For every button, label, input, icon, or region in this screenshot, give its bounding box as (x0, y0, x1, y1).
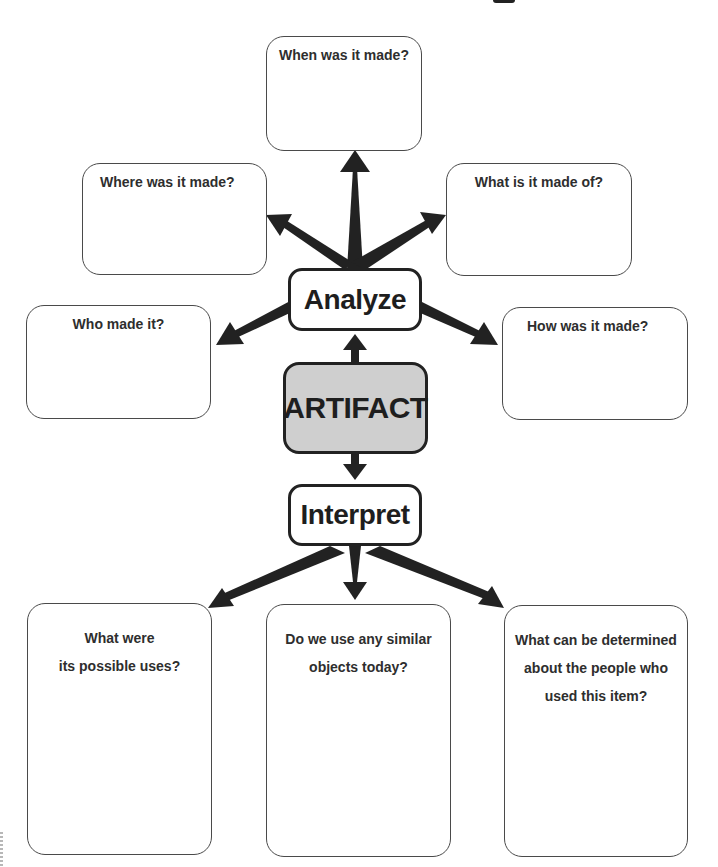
artifact-node: ARTIFACT (283, 362, 428, 454)
question-label: Do we use any similar objects today? (267, 625, 450, 681)
question-label: What were its possible uses? (28, 624, 211, 680)
arrow-to-how (418, 300, 482, 338)
question-box-people[interactable]: What can be determined about the people … (504, 605, 688, 857)
question-box-uses[interactable]: What were its possible uses? (27, 603, 212, 855)
question-label: How was it made? (503, 316, 687, 336)
interpret-node: Interpret (288, 484, 422, 546)
interpret-label: Interpret (300, 499, 409, 531)
question-label: What can be determined about the people … (505, 626, 687, 710)
arrow-to-what-of (352, 218, 434, 270)
arrow-to-where (280, 219, 352, 270)
question-label: Who made it? (27, 314, 210, 334)
arrow-to-when (347, 168, 363, 270)
artifact-label: ARTIFACT (283, 391, 427, 425)
analyze-label: Analyze (304, 284, 406, 316)
question-label: What is it made of? (447, 172, 631, 192)
arrow-to-similar (349, 546, 361, 582)
question-box-what-of[interactable]: What is it made of? (446, 163, 632, 276)
question-box-similar[interactable]: Do we use any similar objects today? (266, 604, 451, 857)
question-label: Where was it made? (83, 172, 266, 192)
question-box-when[interactable]: When was it made? (266, 36, 422, 151)
question-box-how[interactable]: How was it made? (502, 307, 688, 420)
arrow-to-uses (218, 546, 345, 603)
arrow-to-who (232, 300, 292, 338)
question-box-who[interactable]: Who made it? (26, 305, 211, 419)
question-box-where[interactable]: Where was it made? (82, 163, 267, 275)
question-label: When was it made? (267, 45, 421, 65)
analyze-node: Analyze (288, 268, 422, 331)
arrow-to-people (365, 546, 494, 601)
